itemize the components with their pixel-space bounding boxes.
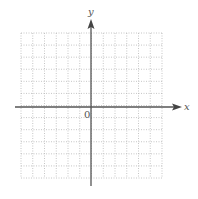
y-axis-label: y (87, 6, 94, 17)
axes (15, 19, 182, 186)
x-axis-label: x (184, 101, 190, 112)
origin-label: 0 (84, 109, 90, 120)
coordinate-plane: x y 0 (0, 0, 198, 199)
